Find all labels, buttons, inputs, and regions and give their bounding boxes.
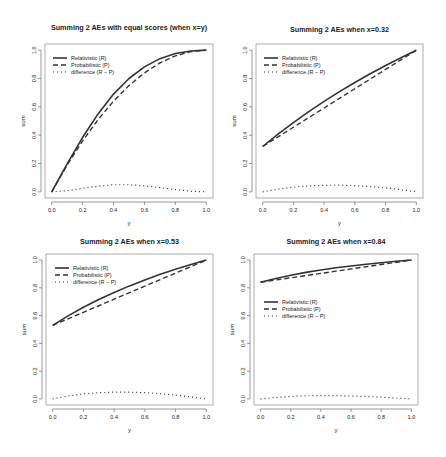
x-tick-label: 1.0	[202, 414, 210, 420]
chart-panel-2: Summing 2 AEs when x=0.320.00.20.40.60.8…	[231, 25, 423, 226]
x-tick-label: 0.8	[172, 207, 180, 213]
chart-panel-1: Summing 2 AEs with equal scores (when x=…	[20, 23, 213, 226]
series-dashed	[261, 260, 412, 282]
y-tick-label: 0.0	[31, 188, 37, 196]
figure-canvas: Summing 2 AEs with equal scores (when x=…	[0, 0, 446, 457]
legend-label: difference (R − P)	[73, 279, 116, 285]
y-tick-label: 0.2	[32, 367, 38, 375]
x-tick-label: 0.4	[317, 414, 325, 420]
series-dotted	[52, 185, 207, 192]
y-tick-label: 0.2	[240, 367, 246, 375]
legend-label: Relativistic (R)	[71, 55, 107, 61]
chart-title: Summing 2 AEs when x=0.32	[290, 25, 389, 34]
legend-label: difference (R − P)	[282, 69, 325, 75]
x-tick-label: 0.8	[377, 414, 385, 420]
y-tick-label: 0.0	[32, 395, 38, 403]
x-tick-label: 0.6	[351, 207, 359, 213]
y-tick-label: 1.0	[31, 46, 37, 54]
series-dotted	[263, 185, 417, 192]
y-tick-label: 0.4	[31, 131, 37, 139]
x-tick-label: 0.6	[347, 414, 355, 420]
legend-label: difference (R − P)	[71, 69, 114, 75]
plot-frame	[46, 254, 213, 405]
y-tick-label: 0.6	[242, 103, 248, 111]
x-tick-label: 0.2	[290, 207, 298, 213]
y-axis-label: sum	[229, 324, 235, 335]
y-tick-label: 0.8	[240, 284, 246, 292]
y-tick-label: 0.0	[242, 188, 248, 196]
series-dotted	[53, 392, 207, 399]
x-tick-label: 0.4	[110, 414, 118, 420]
x-tick-label: 0.4	[320, 207, 328, 213]
y-tick-label: 0.4	[32, 340, 38, 348]
x-tick-label: 0.6	[141, 207, 149, 213]
y-axis-label: sum	[20, 115, 26, 126]
chart-title: Summing 2 AEs with equal scores (when x=…	[51, 23, 208, 32]
legend: Relativistic (R)Probabilistic (P)differe…	[264, 299, 325, 319]
x-tick-label: 0.0	[259, 207, 267, 213]
legend-label: Relativistic (R)	[282, 299, 318, 305]
y-axis-label: sum	[231, 115, 237, 126]
legend-label: Relativistic (R)	[73, 265, 109, 271]
x-tick-label: 0.0	[257, 414, 265, 420]
y-tick-label: 0.2	[31, 160, 37, 168]
y-axis-label: sum	[21, 324, 27, 335]
legend-label: Probabilistic (P)	[71, 62, 110, 68]
legend-label: Relativistic (R)	[282, 55, 318, 61]
x-tick-label: 0.4	[110, 207, 118, 213]
y-tick-label: 0.2	[242, 160, 248, 168]
y-tick-label: 0.6	[240, 312, 246, 320]
y-tick-label: 1.0	[32, 256, 38, 264]
x-tick-label: 0.6	[141, 414, 149, 420]
x-tick-label: 0.0	[48, 207, 56, 213]
series-dotted	[261, 396, 412, 399]
y-tick-label: 0.6	[31, 103, 37, 111]
legend-label: difference (R − P)	[282, 313, 325, 319]
x-axis-label: y	[338, 220, 341, 226]
x-tick-label: 0.0	[49, 414, 57, 420]
y-tick-label: 0.8	[31, 75, 37, 83]
legend-label: Probabilistic (P)	[73, 272, 112, 278]
chart-panel-3: Summing 2 AEs when x=0.530.00.20.40.60.8…	[21, 237, 213, 433]
y-tick-label: 1.0	[240, 256, 246, 264]
chart-title: Summing 2 AEs when x=0.53	[80, 237, 179, 246]
plot-frame	[254, 254, 418, 405]
y-tick-label: 0.8	[242, 75, 248, 83]
x-tick-label: 0.2	[80, 414, 88, 420]
x-axis-label: y	[128, 220, 131, 226]
x-tick-label: 0.8	[382, 207, 390, 213]
y-tick-label: 0.4	[242, 131, 248, 139]
legend: Relativistic (R)Probabilistic (P)differe…	[53, 55, 114, 75]
x-tick-label: 0.2	[287, 414, 295, 420]
x-axis-label: y	[335, 427, 338, 433]
x-tick-label: 1.0	[408, 414, 416, 420]
x-tick-label: 0.8	[172, 414, 180, 420]
x-tick-label: 1.0	[202, 207, 210, 213]
legend: Relativistic (R)Probabilistic (P)differe…	[264, 55, 325, 75]
y-tick-label: 0.8	[32, 284, 38, 292]
chart-title: Summing 2 AEs when x=0.84	[287, 237, 386, 246]
y-tick-label: 0.4	[240, 340, 246, 348]
legend-label: Probabilistic (P)	[282, 62, 321, 68]
figure: Summing 2 AEs with equal scores (when x=…	[0, 0, 446, 457]
legend-label: Probabilistic (P)	[282, 306, 321, 312]
x-tick-label: 1.0	[412, 207, 420, 213]
x-axis-label: y	[128, 427, 131, 433]
y-tick-label: 1.0	[242, 46, 248, 54]
x-tick-label: 0.2	[79, 207, 87, 213]
chart-panel-4: Summing 2 AEs when x=0.840.00.20.40.60.8…	[229, 237, 418, 433]
y-tick-label: 0.0	[240, 395, 246, 403]
legend: Relativistic (R)Probabilistic (P)differe…	[55, 265, 116, 285]
y-tick-label: 0.6	[32, 312, 38, 320]
